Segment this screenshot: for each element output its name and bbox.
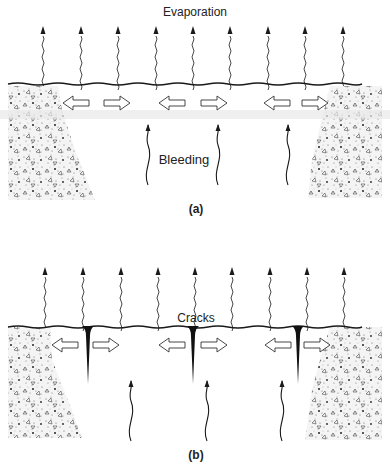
panel-b: [8, 267, 382, 441]
bleeding-arrows-b: [129, 380, 285, 441]
lateral-arrows: [63, 96, 328, 110]
surface-line: [8, 83, 362, 85]
lateral-arrows-b: [52, 338, 330, 352]
surface-line-b: [8, 326, 362, 328]
bleeding-label: Bleeding: [159, 152, 210, 167]
caption-a: (a): [189, 202, 204, 216]
panel-a: [0, 26, 390, 200]
evaporation-arrows: [41, 26, 346, 90]
cracks-label: Cracks: [177, 311, 214, 325]
shrinkage-diagram: [0, 0, 390, 467]
cracks: [82, 326, 304, 384]
caption-b: (b): [188, 448, 203, 462]
evaporation-label: Evaporation: [163, 5, 227, 19]
